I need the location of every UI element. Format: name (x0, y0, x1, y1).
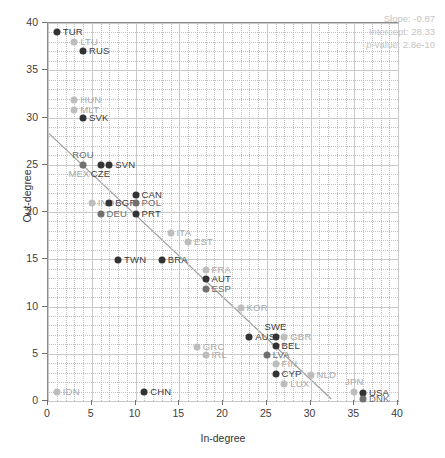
data-point[interactable] (71, 106, 78, 113)
x-axis-tick-label: 40 (391, 407, 403, 419)
data-point-label: ROU (72, 150, 94, 160)
data-point[interactable] (351, 389, 358, 396)
data-point-label: CZE (91, 169, 111, 179)
x-axis-tick-label: 30 (304, 407, 316, 419)
data-point[interactable] (202, 351, 209, 358)
data-point[interactable] (132, 200, 139, 207)
x-axis-tick-label: 25 (260, 407, 272, 419)
data-point[interactable] (263, 351, 270, 358)
y-axis-tick-label: 25 (11, 158, 38, 170)
gridline-horizontal (48, 42, 398, 43)
x-axis-tick-label: 0 (44, 407, 50, 419)
data-point-label: ITA (177, 228, 192, 238)
data-point[interactable] (360, 396, 367, 403)
data-point[interactable] (106, 200, 113, 207)
data-point[interactable] (80, 48, 87, 55)
x-axis-tick (353, 400, 354, 405)
y-axis-tick (42, 22, 47, 23)
data-point-label: IRL (212, 350, 227, 360)
gridline-horizontal (48, 392, 398, 393)
intercept-text: Intercept: 28.33 (366, 25, 435, 38)
x-axis-tick-label: 15 (172, 407, 184, 419)
data-point[interactable] (132, 210, 139, 217)
slope-text: Slope: -0.87 (366, 12, 435, 25)
y-axis-tick-label: 40 (11, 16, 38, 28)
y-axis-tick-label: 20 (11, 205, 38, 217)
y-axis-tick-label: 10 (11, 300, 38, 312)
x-axis-title: In-degree (47, 432, 399, 444)
y-axis-tick (42, 164, 47, 165)
y-axis-tick (42, 306, 47, 307)
data-point[interactable] (202, 266, 209, 273)
gridline-horizontal (48, 335, 398, 336)
y-axis-tick (42, 211, 47, 212)
data-point-label: ESP (212, 284, 232, 294)
y-axis-tick-label: 15 (11, 252, 38, 264)
data-point[interactable] (158, 257, 165, 264)
x-axis-tick-label: 35 (347, 407, 359, 419)
y-axis-tick (42, 400, 47, 401)
data-point[interactable] (106, 161, 113, 168)
data-point[interactable] (141, 389, 148, 396)
gridline-horizontal (48, 184, 398, 185)
data-point[interactable] (71, 38, 78, 45)
data-point[interactable] (202, 276, 209, 283)
data-point[interactable] (71, 96, 78, 103)
y-axis-tick-label: 35 (11, 63, 38, 75)
gridline-horizontal (48, 108, 398, 109)
data-point[interactable] (281, 333, 288, 340)
gridline-horizontal (48, 373, 398, 374)
data-point-label: SVK (89, 113, 109, 123)
gridline-horizontal (48, 127, 398, 128)
x-axis-tick (310, 400, 311, 405)
data-point[interactable] (202, 286, 209, 293)
data-point-label: BRA (168, 255, 188, 265)
x-axis-tick (135, 400, 136, 405)
data-point-label: DEU (107, 209, 128, 219)
data-point-label: IDN (63, 387, 80, 397)
data-point[interactable] (80, 115, 87, 122)
data-point[interactable] (97, 210, 104, 217)
y-axis-tick (42, 258, 47, 259)
data-point[interactable] (237, 305, 244, 312)
data-point[interactable] (185, 239, 192, 246)
data-point-label: DNK (369, 394, 390, 404)
gridline-horizontal (48, 240, 398, 241)
data-point[interactable] (53, 29, 60, 36)
data-point-label: MEX (68, 169, 89, 179)
data-point-label: JPN (345, 377, 364, 387)
data-point[interactable] (272, 361, 279, 368)
gridline-horizontal (48, 89, 398, 90)
data-point[interactable] (272, 370, 279, 377)
gridline-horizontal (48, 316, 398, 317)
data-point[interactable] (246, 333, 253, 340)
data-point-label: SVN (115, 160, 135, 170)
data-point[interactable] (281, 380, 288, 387)
scatter-plot-figure: TURLTURUSHUNMLTSVKMEXROUCZESVNCANINDBGRP… (0, 0, 445, 458)
gridline-horizontal (48, 307, 398, 308)
data-point-label: TWN (124, 255, 146, 265)
x-axis-tick (178, 400, 179, 405)
data-point[interactable] (88, 200, 95, 207)
data-point-label: LUX (290, 379, 309, 389)
y-axis-tick (42, 117, 47, 118)
data-point[interactable] (167, 229, 174, 236)
regression-stats-annotation: Slope: -0.87 Intercept: 28.33 p-value: 2… (366, 12, 435, 51)
x-axis-tick (47, 400, 48, 405)
pvalue-text: p-value: 2.8e-10 (366, 38, 435, 51)
y-axis-tick-label: 0 (11, 394, 38, 406)
data-point[interactable] (193, 344, 200, 351)
data-point[interactable] (115, 257, 122, 264)
pvalue-rest: -value: 2.8e-10 (372, 39, 435, 50)
data-point[interactable] (80, 161, 87, 168)
y-axis-tick (42, 69, 47, 70)
y-axis-tick-label: 30 (11, 111, 38, 123)
y-axis-tick-label: 5 (11, 347, 38, 359)
gridline-horizontal (48, 297, 398, 298)
data-point-label: NLD (317, 370, 337, 380)
data-point[interactable] (53, 389, 60, 396)
gridline-horizontal (48, 155, 398, 156)
gridline-vertical (398, 23, 399, 401)
gridline-horizontal (48, 32, 398, 33)
data-point-label: EST (194, 237, 213, 247)
